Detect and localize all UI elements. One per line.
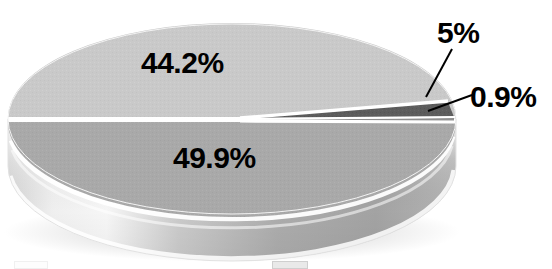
pie-chart-figure: 44.2% 49.9% 5% 0.9%: [0, 0, 552, 269]
legend-swatch-1[interactable]: [272, 261, 308, 269]
pie-top-surface: [8, 23, 456, 217]
pie-slice-44-2-upper[interactable]: [8, 23, 456, 118]
legend-swatch-0[interactable]: [14, 261, 48, 269]
slice-label-44-2: 44.2%: [141, 48, 224, 78]
slice-label-5: 5%: [437, 18, 479, 48]
slice-label-0-9: 0.9%: [470, 82, 536, 112]
slice-label-49-9: 49.9%: [173, 143, 256, 173]
